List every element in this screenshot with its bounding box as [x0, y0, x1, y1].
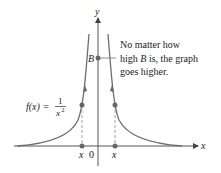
annotation-line-2-prefix: high — [120, 53, 140, 64]
axis-point-right — [113, 144, 118, 149]
annotation-line-2-suffix: is, the graph — [146, 53, 198, 64]
function-numerator: 1 — [58, 96, 63, 106]
x-axis-label: x — [200, 140, 206, 151]
y-axis-label: y — [94, 6, 100, 17]
curve-right-branch — [108, 34, 182, 146]
point-B-label: B — [88, 53, 94, 64]
origin-label: 0 — [89, 149, 94, 160]
function-denominator-exp: 2 — [62, 107, 65, 113]
annotation-line-2: high B is, the graph — [120, 53, 198, 64]
curve-point-right — [113, 103, 118, 108]
function-denominator-base: x — [55, 108, 60, 118]
tick-label-right-x: x — [111, 149, 117, 160]
graph-canvas: y x 0 x x B No matter how high B is, the… — [0, 0, 221, 173]
axis-point-left — [80, 144, 85, 149]
curve-left-branch — [17, 34, 89, 146]
annotation-line-3: goes higher. — [120, 66, 168, 77]
curve-point-left — [80, 103, 85, 108]
tick-label-left-x: x — [78, 149, 84, 160]
function-lhs: f(x) = — [26, 101, 49, 113]
point-B — [96, 56, 101, 61]
annotation-line-1: No matter how — [120, 39, 181, 50]
